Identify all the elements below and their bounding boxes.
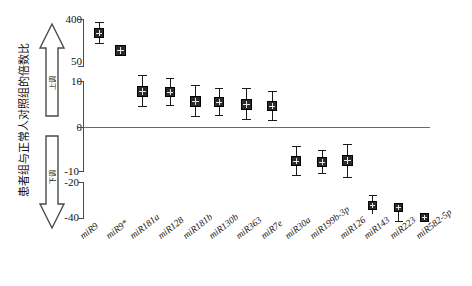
y-axis-segment-top (83, 19, 84, 67)
chart-figure: 患者组与正常人对照组的倍数比 上调 下调 400 50 10 0 -10 -20… (0, 0, 472, 286)
x-label-miR181a: miR181a (128, 212, 161, 241)
error-cap-top (166, 78, 174, 79)
y-tick-mark-50 (78, 66, 84, 67)
y-tick-mark-neg20 (78, 182, 84, 183)
data-point-miR126 (340, 144, 354, 178)
error-cap-bottom (268, 120, 277, 121)
zero-reference-line (84, 127, 430, 128)
y-tick-400: 400 (48, 13, 82, 25)
marker-square (342, 155, 353, 166)
marker-square (137, 86, 148, 97)
y-tick-neg20: -20 (45, 176, 79, 188)
marker-square (241, 99, 252, 110)
error-cap-bottom (242, 119, 251, 120)
data-point-miR223 (392, 203, 405, 222)
data-point-miR130b (212, 88, 226, 116)
data-point-miR199b-3p (315, 150, 329, 174)
error-cap-top (95, 22, 104, 23)
y-tick-mark-400 (78, 19, 84, 20)
y-tick-neg40: -40 (45, 211, 79, 223)
data-point-miR7e (265, 91, 279, 121)
marker-square (190, 96, 201, 107)
error-cap-top (292, 146, 301, 147)
data-point-miR181a (135, 75, 149, 107)
x-label-miR143: miR143 (362, 215, 391, 241)
marker-square (317, 157, 327, 167)
up-arrow-icon (38, 22, 66, 118)
data-point-miR9 (92, 22, 106, 44)
y-axis-title: 患者组与正常人对照组的倍数比 (15, 15, 31, 225)
error-cap-bottom (191, 116, 200, 117)
error-cap-top (318, 150, 326, 151)
y-axis-segment-bottom (83, 182, 84, 218)
error-cap-bottom (318, 173, 326, 174)
error-cap-top (138, 75, 147, 76)
marker-square (394, 203, 403, 212)
data-point-miR363 (239, 88, 253, 120)
error-cap-bottom (292, 175, 301, 176)
x-label-miR30a: miR30a (283, 215, 312, 241)
y-tick-mark-neg10 (78, 171, 84, 172)
y-tick-0: 0 (48, 121, 82, 133)
error-cap-top (215, 88, 223, 89)
data-point-miR143 (366, 195, 379, 214)
x-label-miR9: miR9 (78, 221, 100, 241)
marker-square (368, 201, 377, 210)
marker-square (165, 87, 175, 97)
error-cap-top (343, 144, 352, 145)
error-cap-bottom (166, 105, 174, 106)
error-cap-bottom (215, 115, 223, 116)
y-tick-mark-neg40 (78, 218, 84, 219)
marker-square (291, 156, 301, 166)
error-cap-top (369, 195, 377, 196)
up-regulated-arrow (38, 22, 66, 118)
error-cap-bottom (95, 43, 104, 44)
data-point-miR128 (163, 78, 177, 106)
marker-square (115, 45, 126, 56)
data-point-miR181b (188, 85, 202, 117)
marker-square (267, 101, 277, 111)
x-label-miR9-star: miR9* (104, 218, 130, 241)
y-tick-10: 10 (48, 75, 82, 87)
y-tick-50: 50 (48, 55, 82, 67)
error-cap-top (191, 85, 200, 86)
error-cap-top (242, 88, 251, 89)
error-cap-bottom (138, 106, 147, 107)
y-tick-mark-10 (78, 81, 84, 82)
data-point-miR30a (289, 146, 303, 176)
data-point-miR9-star (114, 45, 127, 57)
marker-square (214, 97, 224, 107)
error-cap-top (268, 91, 277, 92)
marker-square (94, 28, 104, 38)
error-cap-bottom (343, 177, 352, 178)
